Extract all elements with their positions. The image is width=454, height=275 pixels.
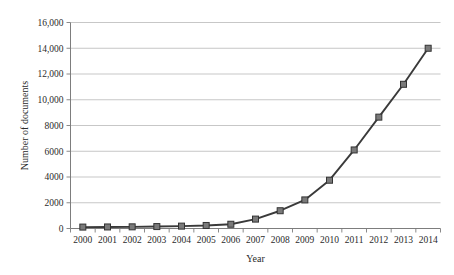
x-tick-label: 2013 bbox=[394, 235, 413, 245]
y-tick-label: 2000 bbox=[45, 198, 64, 208]
x-tick-label: 2005 bbox=[197, 235, 216, 245]
data-point-marker bbox=[80, 224, 86, 230]
x-tick-label: 2008 bbox=[271, 235, 290, 245]
y-tick-label: 6000 bbox=[45, 147, 64, 157]
x-tick-label: 2007 bbox=[246, 235, 265, 245]
y-axis-title: Number of documents bbox=[19, 81, 30, 171]
x-tick-label: 2009 bbox=[295, 235, 314, 245]
gridlines-group bbox=[71, 23, 441, 203]
y-tick-label: 16,000 bbox=[37, 18, 63, 28]
y-tick-label: 0 bbox=[59, 224, 64, 234]
y-tick-labels-group: 0200040006000800010,00012,00014,00016,00… bbox=[37, 18, 63, 234]
data-point-marker bbox=[302, 197, 308, 203]
x-tick-label: 2012 bbox=[369, 235, 388, 245]
data-point-marker bbox=[129, 224, 135, 230]
x-tick-label: 2001 bbox=[98, 235, 117, 245]
data-point-marker bbox=[351, 147, 357, 153]
x-tick-label: 2000 bbox=[73, 235, 92, 245]
data-point-marker bbox=[401, 81, 407, 87]
x-tick-label: 2004 bbox=[172, 235, 191, 245]
data-point-marker bbox=[376, 114, 382, 120]
x-axis-title: Year bbox=[246, 253, 265, 264]
chart-figure: 0200040006000800010,00012,00014,00016,00… bbox=[0, 0, 454, 275]
data-point-marker bbox=[154, 224, 160, 230]
data-point-marker bbox=[253, 216, 259, 222]
y-tick-label: 10,000 bbox=[37, 95, 63, 105]
y-tick-label: 12,000 bbox=[37, 69, 63, 79]
data-point-marker bbox=[327, 177, 333, 183]
x-tick-label: 2014 bbox=[419, 235, 438, 245]
data-point-marker bbox=[425, 45, 431, 51]
x-tick-label: 2010 bbox=[320, 235, 339, 245]
x-tick-marks-group bbox=[71, 229, 441, 233]
y-tick-label: 4000 bbox=[45, 172, 64, 182]
data-point-marker bbox=[105, 224, 111, 230]
x-tick-label: 2002 bbox=[123, 235, 142, 245]
series-line-number-of-documents bbox=[83, 48, 428, 227]
y-tick-marks-group bbox=[67, 23, 71, 229]
data-point-marker bbox=[228, 221, 234, 227]
y-tick-label: 8000 bbox=[45, 121, 64, 131]
data-point-marker bbox=[179, 223, 185, 229]
x-tick-label: 2006 bbox=[221, 235, 240, 245]
data-point-marker bbox=[277, 208, 283, 214]
x-tick-label: 2003 bbox=[147, 235, 166, 245]
y-tick-label: 14,000 bbox=[37, 44, 63, 54]
line-chart: 0200040006000800010,00012,00014,00016,00… bbox=[0, 0, 454, 275]
x-tick-label: 2011 bbox=[345, 235, 364, 245]
data-point-marker bbox=[203, 222, 209, 228]
x-tick-labels-group: 2000200120022003200420052006200720082009… bbox=[73, 235, 438, 245]
